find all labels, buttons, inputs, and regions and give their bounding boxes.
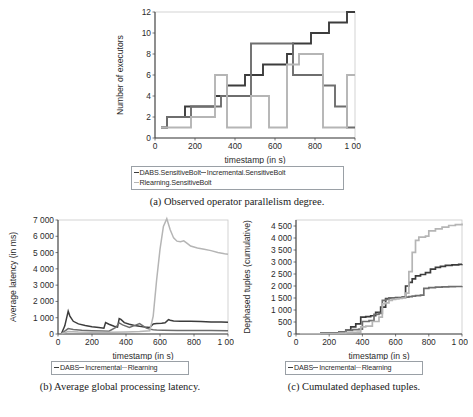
- y-axis-title: Average latency (in ms): [8, 232, 18, 322]
- x-tick-label: 800: [187, 337, 201, 347]
- y-tick-label: 4: [146, 91, 151, 101]
- y-tick-label: 7 000: [33, 215, 54, 225]
- legend-label: Incremental: [319, 363, 355, 372]
- x-tick-label: 0: [294, 337, 299, 347]
- plot-b: 01 0002 0003 0004 0005 0006 0007 0000200…: [6, 212, 234, 360]
- x-tick-label: 600: [389, 337, 403, 347]
- chart-b-canvas: 01 0002 0003 0004 0005 0006 0007 0000200…: [6, 212, 234, 360]
- legend-label: Incremental.SensitiveBolt: [207, 168, 286, 177]
- legend-item-dabs[interactable]: DABS: [54, 363, 79, 373]
- x-axis-title: timestamp (in s): [348, 351, 409, 361]
- y-tick-label: 10: [142, 28, 152, 38]
- legend-item-rlearning-sensitivebolt[interactable]: Rlearning.SensitiveBolt: [134, 178, 212, 188]
- legend-label: DABS: [294, 363, 313, 372]
- x-tick-label: 400: [119, 337, 133, 347]
- x-tick-label: 0: [153, 141, 158, 151]
- y-tick-label: 5 000: [33, 248, 54, 258]
- legend-line-icon: [313, 367, 318, 368]
- caption-c: (c) Cumulated dephased tuples.: [240, 381, 468, 392]
- legend-b: DABSIncrementalRlearning: [51, 361, 189, 375]
- plot-a: 02468101202004006008001 000timestamp (in…: [113, 4, 361, 164]
- legend-line-icon: [356, 367, 361, 368]
- x-tick-label: 0: [56, 337, 61, 347]
- caption-a: (a) Observed operator parallelism degree…: [113, 196, 361, 207]
- x-tick-label: 800: [422, 337, 436, 347]
- figure-panel-a: 02468101202004006008001 000timestamp (in…: [113, 4, 361, 207]
- legend-label: Rlearning: [362, 363, 392, 372]
- x-tick-label: 400: [228, 141, 242, 151]
- y-tick-label: 3 000: [271, 257, 292, 267]
- legend-line-icon: [201, 172, 206, 173]
- y-tick-label: 1 000: [271, 305, 292, 315]
- legend-line-icon: [134, 182, 139, 183]
- legend-label: DABS.SensitiveBolt: [140, 168, 201, 177]
- x-tick-label: 1 000: [345, 141, 361, 151]
- legend-item-rlearning[interactable]: Rlearning: [356, 363, 392, 373]
- y-tick-label: 2 000: [271, 281, 292, 291]
- legend-item-incremental[interactable]: Incremental: [79, 363, 121, 373]
- x-tick-label: 200: [85, 337, 99, 347]
- plot-frame: [58, 220, 228, 334]
- x-tick-label: 800: [308, 141, 322, 151]
- y-tick-label: 4 500: [271, 221, 292, 231]
- y-tick-label: 0: [49, 329, 54, 339]
- y-axis-title: Number of executors: [115, 35, 125, 115]
- x-tick-label: 1 000: [452, 337, 468, 347]
- caption-b: (b) Average global processing latency.: [6, 381, 234, 392]
- y-tick-label: 3 000: [33, 280, 54, 290]
- y-tick-label: 500: [278, 317, 292, 327]
- x-tick-label: 400: [355, 337, 369, 347]
- y-tick-label: 0: [287, 329, 292, 339]
- y-tick-label: 12: [142, 7, 152, 17]
- legend-item-incremental[interactable]: Incremental: [313, 363, 355, 373]
- legend-label: DABS: [60, 363, 79, 372]
- x-axis-title: timestamp (in s): [224, 155, 285, 165]
- y-tick-label: 6 000: [33, 231, 54, 241]
- y-tick-label: 1 500: [271, 293, 292, 303]
- legend-label: Rlearning: [128, 363, 158, 372]
- y-tick-label: 6: [146, 70, 151, 80]
- figure-panel-c: 05001 0001 5002 0002 5003 0003 5004 0004…: [240, 212, 468, 392]
- legend-item-dabs[interactable]: DABS: [288, 363, 313, 373]
- legend-line-icon: [79, 367, 84, 368]
- legend-c: DABSIncrementalRlearning: [285, 361, 423, 375]
- y-tick-label: 2 000: [33, 296, 54, 306]
- x-tick-label: 600: [153, 337, 167, 347]
- x-tick-label: 600: [268, 141, 282, 151]
- x-tick-label: 1 000: [218, 337, 234, 347]
- y-tick-label: 2 500: [271, 269, 292, 279]
- chart-c-canvas: 05001 0001 5002 0002 5003 0003 5004 0004…: [240, 212, 468, 360]
- legend-line-icon: [122, 367, 127, 368]
- figure-panel-b: 01 0002 0003 0004 0005 0006 0007 0000200…: [6, 212, 234, 392]
- y-tick-label: 8: [146, 49, 151, 59]
- legend-a: DABS.SensitiveBoltIncremental.SensitiveB…: [131, 166, 344, 190]
- x-tick-label: 200: [322, 337, 336, 347]
- x-tick-label: 200: [188, 141, 202, 151]
- y-tick-label: 0: [146, 133, 151, 143]
- legend-item-rlearning[interactable]: Rlearning: [122, 363, 158, 373]
- y-tick-label: 3 500: [271, 245, 292, 255]
- legend-line-icon: [134, 172, 139, 173]
- y-tick-label: 4 000: [271, 233, 292, 243]
- y-tick-label: 1 000: [33, 313, 54, 323]
- x-axis-title: timestamp (in s): [112, 351, 173, 361]
- legend-label: Rlearning.SensitiveBolt: [140, 178, 212, 187]
- plot-c: 05001 0001 5002 0002 5003 0003 5004 0004…: [240, 212, 468, 360]
- legend-item-incremental-sensitivebolt[interactable]: Incremental.SensitiveBolt: [201, 168, 286, 178]
- y-tick-label: 2: [146, 112, 151, 122]
- legend-line-icon: [288, 367, 293, 368]
- legend-line-icon: [54, 367, 59, 368]
- y-tick-label: 4 000: [33, 264, 54, 274]
- y-axis-title: Dephased tuples (cumulative): [242, 220, 252, 334]
- legend-label: Incremental: [85, 363, 121, 372]
- chart-a-canvas: 02468101202004006008001 000timestamp (in…: [113, 4, 361, 164]
- legend-item-dabs-sensitivebolt[interactable]: DABS.SensitiveBolt: [134, 168, 201, 178]
